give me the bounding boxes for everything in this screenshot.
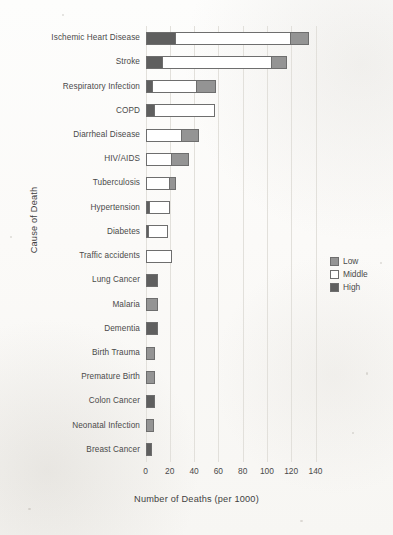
bar-ischemic-heart-disease <box>146 32 308 45</box>
bar-segment-middle <box>152 80 197 93</box>
legend-swatch-low <box>330 257 339 266</box>
category-label: Tuberculosis <box>0 178 140 188</box>
category-label: Respiratory Infection <box>0 82 140 92</box>
x-tick-label: 80 <box>238 466 247 476</box>
x-tick-label: 20 <box>165 466 174 476</box>
category-label: Ischemic Heart Disease <box>0 33 140 43</box>
x-tick-label: 100 <box>260 466 274 476</box>
bar-breast-cancer <box>146 443 151 456</box>
gridline <box>243 26 244 462</box>
bar-neonatal-infection <box>146 419 154 432</box>
category-label: Premature Birth <box>0 372 140 382</box>
bar-segment-high <box>146 32 176 45</box>
legend-item: Middle <box>330 268 368 280</box>
bar-segment-low <box>146 298 158 311</box>
category-label: Diarrheal Disease <box>0 130 140 140</box>
x-tick-label: 140 <box>309 466 323 476</box>
x-tick-label: 0 <box>143 466 148 476</box>
bar-segment-high <box>146 322 158 335</box>
bar-segment-high <box>146 56 163 69</box>
bar-segment-middle <box>162 56 273 69</box>
scan-artifact <box>380 262 382 264</box>
bar-segment-middle <box>146 129 182 142</box>
bar-segment-low <box>271 56 287 69</box>
x-axis: 020406080100120140 <box>146 462 316 463</box>
legend-swatch-high <box>330 283 339 292</box>
category-label: Diabetes <box>0 227 140 237</box>
category-label: Dementia <box>0 324 140 334</box>
bar-lung-cancer <box>146 274 157 287</box>
bar-respiratory-infection <box>146 80 216 93</box>
bar-copd <box>146 104 214 117</box>
category-label: Stroke <box>0 57 140 67</box>
chart-legend: LowMiddleHigh <box>330 255 368 294</box>
bar-segment-low <box>169 177 176 190</box>
bar-segment-middle <box>175 32 292 45</box>
legend-item: High <box>330 281 368 293</box>
bar-segment-high <box>146 395 156 408</box>
legend-label: High <box>343 282 360 292</box>
x-tick-label: 120 <box>284 466 298 476</box>
bar-segment-middle <box>148 225 167 238</box>
bar-segment-low <box>290 32 308 45</box>
bar-diarrheal-disease <box>146 129 199 142</box>
scan-artifact <box>352 432 354 434</box>
scan-artifact <box>10 236 12 238</box>
bar-segment-middle <box>146 177 170 190</box>
legend-label: Low <box>343 256 358 266</box>
plot-area <box>146 26 316 462</box>
bar-segment-low <box>146 371 156 384</box>
gridline <box>267 26 268 462</box>
bar-stroke <box>146 56 286 69</box>
category-label: Breast Cancer <box>0 445 140 455</box>
legend-item: Low <box>330 255 368 267</box>
category-label: Neonatal Infection <box>0 421 140 431</box>
scan-artifact <box>300 520 303 522</box>
bar-segment-low <box>146 419 155 432</box>
bar-dementia <box>146 322 157 335</box>
bar-traffic-accidents <box>146 250 172 263</box>
chart-page: 020406080100120140 Number of Deaths (per… <box>0 0 393 535</box>
category-label: Birth Trauma <box>0 348 140 358</box>
bar-segment-low <box>181 129 199 142</box>
legend-label: Middle <box>343 269 368 279</box>
category-label: HIV/AIDS <box>0 154 140 164</box>
bar-segment-middle <box>149 201 170 214</box>
scan-artifact <box>28 508 31 510</box>
bar-segment-low <box>196 80 217 93</box>
bar-segment-low <box>171 153 189 166</box>
bar-segment-low <box>146 347 156 360</box>
x-axis-label: Number of Deaths (per 1000) <box>0 494 393 504</box>
bar-diabetes <box>146 225 167 238</box>
category-label: COPD <box>0 106 140 116</box>
x-tick-label: 40 <box>189 466 198 476</box>
category-label: Hypertension <box>0 203 140 213</box>
bar-hypertension <box>146 201 169 214</box>
bar-segment-high <box>146 443 152 456</box>
legend-swatch-middle <box>330 270 339 279</box>
category-label: Colon Cancer <box>0 396 140 406</box>
category-label: Malaria <box>0 300 140 310</box>
bar-birth-trauma <box>146 347 155 360</box>
x-tick-label: 60 <box>214 466 223 476</box>
bar-segment-middle <box>146 153 173 166</box>
scan-artifact <box>366 372 368 375</box>
category-label: Lung Cancer <box>0 275 140 285</box>
bar-segment-middle <box>146 250 173 263</box>
bar-hiv-aids <box>146 153 189 166</box>
gridline <box>316 26 317 462</box>
gridline <box>218 26 219 462</box>
bar-tuberculosis <box>146 177 176 190</box>
bar-colon-cancer <box>146 395 155 408</box>
category-label: Traffic accidents <box>0 251 140 261</box>
bar-segment-high <box>146 274 158 287</box>
scan-artifact <box>62 14 64 16</box>
bar-malaria <box>146 298 157 311</box>
bar-segment-middle <box>154 104 215 117</box>
bar-premature-birth <box>146 371 155 384</box>
gridline <box>291 26 292 462</box>
